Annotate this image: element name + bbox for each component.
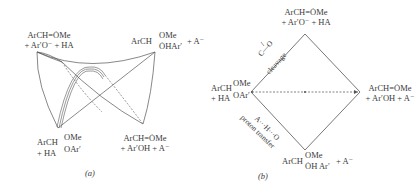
b-top-label: ArCH=ȮMe + Ar′O⁻ + HA [270, 7, 342, 27]
b-right-label: ArCH=ȮMe + Ar′OH + A⁻ [358, 83, 420, 103]
label-upper: OMe [159, 30, 176, 40]
label-line: + Ar′O⁻ + HA [270, 17, 342, 27]
energy-surface [37, 52, 155, 128]
diagram-lines [0, 0, 420, 187]
a-bottom-right-label: ArCH=ȮMe + Ar′OH + A⁻ [110, 133, 180, 153]
label-line: ArCH=ȮMe [110, 133, 180, 143]
label-line: + Ar′OH + A⁻ [358, 93, 420, 103]
label-main: ArCH [37, 137, 58, 147]
label-suffix: + A⁻ [187, 36, 204, 46]
caption-b: (b) [258, 171, 268, 181]
dashed-diagonal [251, 90, 358, 94]
label-line: ArCH=ȮMe [358, 83, 420, 93]
label-line: + Ar′O⁻ + HA [14, 40, 84, 50]
label-line: ArCH=ȮMe [14, 30, 84, 40]
label-lower: OAr′ [64, 144, 81, 154]
label-main: ArCH [131, 36, 152, 46]
label-upper: OMe [64, 132, 81, 142]
label-main: ArCH [282, 156, 303, 166]
label-upper: OMe [305, 150, 322, 160]
label-lower: ȮH Ar′ [305, 161, 330, 171]
label-line: ArCH=ȮMe [270, 7, 342, 17]
label-lower: OAr′ [233, 90, 250, 100]
label-line: + Ar′OH + A⁻ [110, 143, 180, 153]
label-prefix: + HA [211, 93, 230, 103]
caption-a: (a) [85, 168, 95, 178]
label-suffix: + A⁻ [336, 156, 353, 166]
label-lower: ȮHAr′ [159, 41, 182, 51]
label-prefix: + HA [37, 148, 56, 158]
label-main: ArCH [211, 83, 232, 93]
a-top-left-label: ArCH=ȮMe + Ar′O⁻ + HA [14, 30, 84, 50]
label-upper: OMe [233, 78, 250, 88]
